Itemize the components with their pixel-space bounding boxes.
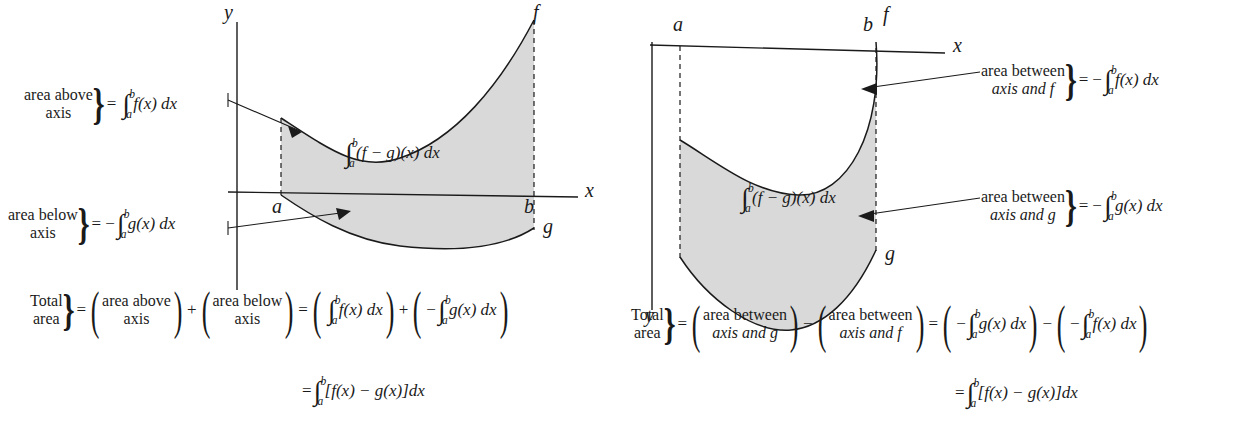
curve-label-g-right: g — [885, 243, 895, 264]
bound-label-b-left: b — [524, 196, 534, 217]
annotation-text-stack: area above axis — [24, 86, 93, 122]
right-panel: x y a b f g ∫ b a (f − g)(x) dx area bet… — [623, 0, 1246, 439]
summary-final-left: = ∫ b a [f(x) − g(x)]dx — [300, 378, 425, 404]
curve-label-f-right: f — [883, 4, 889, 25]
integral-sign-icon: ∫ b a — [328, 297, 339, 323]
integral-body: g(x) dx — [1115, 197, 1163, 215]
total-area-label: Total area — [631, 306, 664, 342]
equals-sign: = — [927, 315, 941, 333]
right-paren-icon: ) — [1139, 302, 1148, 346]
integral-sign-icon: ∫ b a — [967, 380, 978, 406]
integral-sign-icon: ∫ b a — [438, 297, 449, 323]
plus-operator: + — [185, 301, 199, 319]
sign: − — [424, 301, 438, 319]
axis-label-y-left: y — [224, 2, 233, 23]
annotation-text-stack: area between axis and g — [981, 188, 1065, 224]
annotation-line-2: axis and g — [981, 206, 1065, 224]
grouped-term-2: ( area between axis and f ) — [815, 306, 927, 342]
right-paren-icon: ) — [174, 288, 183, 332]
annotation-line-2: axis — [8, 224, 78, 242]
bound-label-a-right: a — [673, 14, 683, 35]
arrowhead-area-between-axis-and-f — [861, 83, 877, 95]
curly-brace-icon: } — [664, 302, 676, 346]
bound-label-a-left: a — [272, 196, 282, 217]
left-paren-icon: ( — [1057, 302, 1066, 346]
total-line-2: area — [631, 324, 664, 342]
total-line-1: Total — [631, 306, 664, 323]
integral-sign-icon: ∫ b a — [968, 311, 979, 337]
term-line-2: axis — [102, 310, 171, 328]
leader-area-between-axis-and-f — [866, 72, 980, 88]
grouped-term-3: ( − ∫ b a g(x) dx ) — [940, 307, 1040, 341]
grouped-term-1: ( area above axis ) — [88, 292, 185, 328]
integral-body: g(x) dx — [128, 215, 176, 233]
annotation-area-between-axis-and-g: area between axis and g } = − ∫ b a g(x)… — [981, 188, 1163, 224]
integral-body: g(x) dx — [979, 315, 1027, 333]
left-panel: y x a b f g ∫ b a (f − g)(x) dx area abo… — [0, 0, 623, 439]
summary-equation-right: Total area } = ( area between axis and g… — [631, 306, 1150, 342]
equals-sign: = — [105, 95, 119, 113]
minus-operator: − — [801, 315, 815, 333]
left-paren-icon: ( — [313, 288, 322, 332]
sign: − — [1068, 315, 1082, 333]
integral-body: f(x) dx — [339, 301, 383, 319]
grouped-term-2: ( area below axis ) — [199, 292, 297, 328]
total-area-label: Total area — [30, 292, 63, 328]
right-paren-icon: ) — [499, 288, 508, 332]
total-line-2: area — [30, 310, 63, 328]
term-line-2: axis and f — [829, 324, 913, 342]
annotation-area-above-axis: area above axis } = ∫ b a f(x) dx — [24, 86, 177, 122]
minus-sign: − — [103, 215, 117, 233]
annotation-line-2: axis and f — [981, 80, 1065, 98]
curve-label-g-left: g — [543, 216, 553, 237]
integral-body: (f − g)(x) dx — [752, 189, 836, 207]
equals-sign: = — [1077, 197, 1091, 215]
integral-body: f(x) dx — [1093, 315, 1137, 333]
integral-body: (f − g)(x) dx — [356, 144, 440, 162]
curly-brace-icon: } — [78, 202, 90, 246]
integral-sign-icon: ∫ b a — [345, 140, 356, 166]
total-line-1: Total — [30, 292, 63, 309]
equals-sign: = — [1077, 71, 1091, 89]
equals-sign: = — [296, 301, 310, 319]
term-line-1: area above — [102, 292, 171, 309]
shaded-region-left — [281, 20, 534, 249]
term-line-1: area between — [703, 306, 787, 323]
region-integral-left: ∫ b a (f − g)(x) dx — [345, 140, 440, 170]
left-paren-icon: ( — [201, 288, 210, 332]
equals-sign: = — [953, 384, 967, 402]
curly-brace-icon: } — [1065, 58, 1077, 102]
curly-brace-icon: } — [1065, 184, 1077, 228]
left-paren-icon: ( — [413, 288, 422, 332]
leader-area-above-axis — [228, 100, 300, 131]
curly-brace-icon: } — [63, 288, 75, 332]
curve-label-f-left: f — [533, 2, 539, 23]
sign: − — [954, 315, 968, 333]
right-paren-icon: ) — [285, 288, 294, 332]
annotation-line-1: area between — [981, 188, 1065, 205]
annotation-text-stack: area between axis and f — [981, 62, 1065, 98]
integral-body: [f(x) − g(x)]dx — [325, 382, 425, 400]
integral-sign-icon: ∫ b a — [1104, 193, 1115, 219]
annotation-line-2: axis — [24, 104, 93, 122]
integral-sign-icon: ∫ b a — [117, 211, 128, 237]
minus-sign: − — [1090, 71, 1104, 89]
annotation-line-1: area between — [981, 62, 1065, 79]
annotation-area-between-axis-and-f: area between axis and f } = − ∫ b a f(x)… — [981, 62, 1159, 98]
right-paren-icon: ) — [915, 302, 924, 346]
x-axis-right — [650, 45, 945, 53]
integral-body: [f(x) − g(x)]dx — [978, 384, 1078, 402]
left-paren-icon: ( — [692, 302, 701, 346]
term-line-2: axis and g — [703, 324, 787, 342]
bound-label-b-right: b — [863, 14, 873, 35]
left-paren-icon: ( — [91, 288, 100, 332]
integral-body: f(x) dx — [1115, 71, 1159, 89]
term-line-2: axis — [213, 310, 283, 328]
annotation-line-1: area above — [24, 86, 93, 103]
plus-operator: + — [397, 301, 411, 319]
grouped-term-1: ( area between axis and g ) — [689, 306, 801, 342]
integral-sign-icon: ∫ b a — [314, 378, 325, 404]
equals-sign: = — [675, 315, 689, 333]
equals-sign: = — [90, 215, 104, 233]
annotation-area-below-axis: area below axis } = − ∫ b a g(x) dx — [8, 206, 175, 242]
